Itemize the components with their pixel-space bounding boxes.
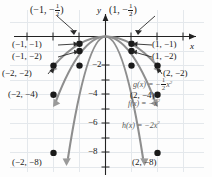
annotation-point-2-neg8: (2, −8) [132,157,157,167]
point-h-left [76,62,82,68]
graph-figure: (−1, −12) (1, −12) (−1, −1) (−1, −2) (−2… [0,0,212,177]
annotation-point-1-neg2: (1, −2) [152,51,177,61]
annotation-point-1-neg1: (1, −1) [152,39,177,49]
y-tick-label-neg4: −4 [88,88,98,98]
paren-close: ) [60,4,63,15]
annotation-point-neg1-neghalf: (−1, −12) [30,3,63,18]
point-f-left2 [50,92,56,98]
point-g-left2 [50,62,56,68]
annotation-point-neg2-neg2: (−2, −2) [2,68,32,78]
function-label-f: f(x) = −x2 [128,98,160,108]
y-tick-label-neg6: −6 [88,117,98,127]
f-exponent: 2 [157,98,159,103]
x-value: −1, [33,4,46,15]
g-prefix: g(x) = − [133,80,161,89]
point-f-right [128,48,134,54]
point-f-right2 [154,92,160,98]
grid-lines [10,10,204,172]
annotation-point-neg1-neg1: (−1, −1) [12,39,42,49]
point-h-right2 [154,150,160,156]
y-tick-label-neg8: −8 [88,146,98,156]
h-equation-text: h(x) = −2x [122,121,157,130]
f-equation-text: f(x) = −x [128,99,157,108]
h-exponent: 2 [157,120,159,125]
function-label-g: g(x) = −12x2 [133,77,172,92]
function-label-h: h(x) = −2x2 [122,120,160,130]
paren-close: ) [133,4,136,15]
annotation-point-neg1-neg2: (−1, −2) [12,51,42,61]
y-axis-arrow [103,14,109,21]
x-axis-label: x [190,41,194,51]
annotation-point-neg2-neg4: (−2, −4) [8,89,38,99]
point-h-right [128,62,134,68]
point-g-right2 [154,62,160,68]
annotation-point-1-neghalf: (1, −12) [109,3,137,18]
y-tick-label-neg2: −2 [92,59,102,69]
point-f-left [76,48,82,54]
y-axis-label: y [97,5,101,15]
x-value: 1, [112,4,120,15]
annotation-point-neg2-neg8: (−2, −8) [12,157,42,167]
x-axis-arrow [189,34,196,40]
g-exponent: 2 [170,80,172,85]
point-h-left2 [50,150,56,156]
